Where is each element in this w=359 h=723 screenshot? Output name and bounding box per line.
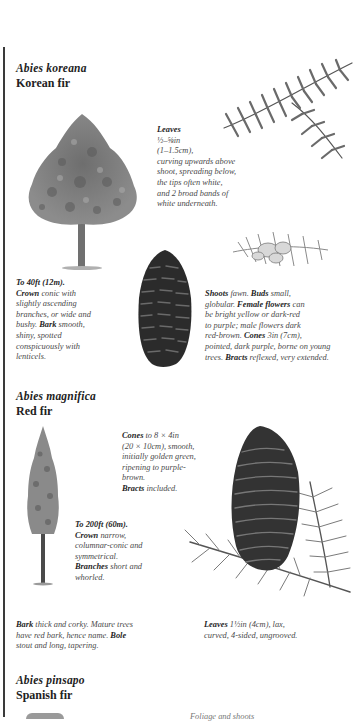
tree-top-icon (26, 713, 64, 719)
crown-bark-description: To 40ft (12m). Crown conic with slightly… (16, 278, 141, 363)
leaves-description: Leaves ½–⅝in (1–1.5cm), curving upwards … (157, 125, 287, 210)
flower-sprig-icon (228, 222, 333, 282)
shoots-description: Shoots fawn. Buds small, globular. Femal… (205, 289, 359, 363)
partial-description: Foliage and shoots (190, 712, 254, 723)
common-name: Red fir (16, 404, 52, 419)
height-label: To 40ft (12m). (16, 278, 65, 287)
leaves-description: Leaves 1½in (4cm), lax, curved, 4-sided,… (204, 620, 354, 641)
tall-tree-icon (22, 424, 64, 586)
latin-name: Abies pinsapo (16, 674, 85, 686)
cone-icon (136, 248, 194, 368)
bark-description: Bark thick and corky. Mature trees have … (16, 620, 186, 652)
leaves-label: Leaves (157, 125, 181, 134)
common-name: Spanish fir (16, 688, 72, 703)
crown-branches-description: To 200ft (60m). Crown narrow, columnar-c… (75, 520, 180, 584)
latin-name: Abies koreana (16, 62, 87, 74)
latin-name: Abies magnifica (16, 390, 96, 402)
page-margin-rule (3, 47, 5, 717)
tree-icon (22, 112, 147, 272)
common-name: Korean fir (16, 76, 70, 91)
cone-on-branch-icon (180, 422, 359, 600)
